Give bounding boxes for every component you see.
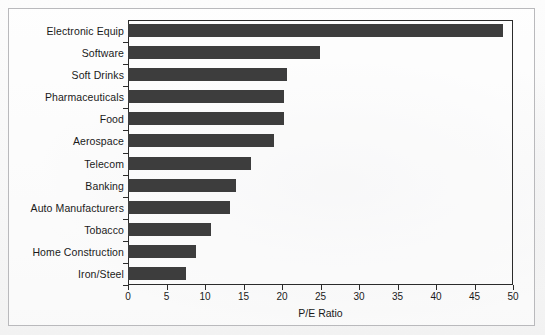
chart-page: Electronic EquipSoftwareSoft DrinksPharm… xyxy=(0,0,545,335)
y-axis-label: Pharmaceuticals xyxy=(0,86,124,108)
x-axis-title: P/E Ratio xyxy=(128,307,513,319)
x-tick xyxy=(436,285,437,290)
x-tick-label: 30 xyxy=(344,291,374,302)
bar-row xyxy=(128,219,513,241)
bar xyxy=(128,24,503,37)
x-tick-label: 25 xyxy=(306,291,336,302)
x-tick xyxy=(128,285,129,290)
y-axis-label: Iron/Steel xyxy=(0,263,124,285)
x-tick xyxy=(167,285,168,290)
bar-row xyxy=(128,263,513,285)
bar-row xyxy=(128,20,513,42)
x-tick-label: 40 xyxy=(421,291,451,302)
x-tick-label: 5 xyxy=(152,291,182,302)
x-tick-label: 50 xyxy=(498,291,528,302)
x-tick xyxy=(282,285,283,290)
bar-row xyxy=(128,241,513,263)
bar xyxy=(128,134,274,147)
bar xyxy=(128,68,287,81)
y-axis-label: Aerospace xyxy=(0,130,124,152)
x-tick xyxy=(359,285,360,290)
y-axis-label: Auto Manufacturers xyxy=(0,197,124,219)
x-tick-label: 35 xyxy=(383,291,413,302)
bar-row xyxy=(128,86,513,108)
bar xyxy=(128,223,211,236)
x-tick-label: 0 xyxy=(113,291,143,302)
y-axis-label: Telecom xyxy=(0,153,124,175)
bar xyxy=(128,46,320,59)
bar xyxy=(128,157,251,170)
y-axis-category-labels: Electronic EquipSoftwareSoft DrinksPharm… xyxy=(0,20,124,285)
x-tick xyxy=(321,285,322,290)
x-tick-label: 20 xyxy=(267,291,297,302)
bar-row xyxy=(128,153,513,175)
bar xyxy=(128,245,196,258)
y-axis-label: Food xyxy=(0,108,124,130)
x-tick xyxy=(475,285,476,290)
bar xyxy=(128,179,236,192)
y-axis-label: Electronic Equip xyxy=(0,20,124,42)
x-tick xyxy=(205,285,206,290)
bar-row xyxy=(128,197,513,219)
bar-row xyxy=(128,108,513,130)
bar-row xyxy=(128,42,513,64)
bar-row xyxy=(128,130,513,152)
y-axis-label: Software xyxy=(0,42,124,64)
x-tick-label: 45 xyxy=(460,291,490,302)
x-tick xyxy=(244,285,245,290)
x-tick xyxy=(513,285,514,290)
x-tick-label: 10 xyxy=(190,291,220,302)
plot-area xyxy=(128,20,513,285)
bar xyxy=(128,201,230,214)
y-axis-label: Banking xyxy=(0,175,124,197)
x-tick xyxy=(398,285,399,290)
bar xyxy=(128,90,284,103)
y-axis-label: Home Construction xyxy=(0,241,124,263)
y-axis-label: Soft Drinks xyxy=(0,64,124,86)
bar-row xyxy=(128,64,513,86)
bar xyxy=(128,112,284,125)
y-axis-label: Tobacco xyxy=(0,219,124,241)
bar-row xyxy=(128,175,513,197)
bar xyxy=(128,267,186,280)
x-tick-label: 15 xyxy=(229,291,259,302)
